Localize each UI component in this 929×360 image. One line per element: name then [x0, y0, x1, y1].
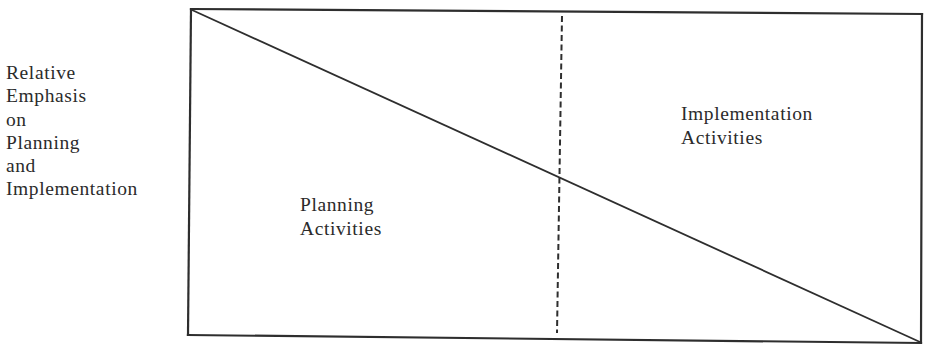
y-axis-label-line: Implementation	[6, 177, 138, 200]
diagonal-divider-line	[192, 10, 920, 342]
diagram-canvas	[0, 0, 929, 360]
implementation-activities-label: Implementation Activities	[681, 102, 813, 150]
frame-bottom-edge	[188, 335, 921, 343]
planning-label-line: Activities	[300, 217, 382, 241]
planning-activities-label: Planning Activities	[300, 193, 382, 241]
y-axis-label-line: Emphasis	[6, 84, 138, 107]
y-axis-label: Relative Emphasis on Planning and Implem…	[6, 61, 138, 201]
y-axis-label-line: and	[6, 154, 138, 177]
frame-right-edge	[921, 14, 922, 343]
y-axis-label-line: on	[6, 108, 138, 131]
dashed-midpoint-line	[557, 16, 562, 333]
y-axis-label-line: Relative	[6, 61, 138, 84]
frame-top-edge	[191, 9, 922, 14]
frame-left-edge	[188, 9, 191, 335]
planning-label-line: Planning	[300, 193, 382, 217]
implementation-label-line: Activities	[681, 126, 813, 150]
implementation-label-line: Implementation	[681, 102, 813, 126]
y-axis-label-line: Planning	[6, 131, 138, 154]
